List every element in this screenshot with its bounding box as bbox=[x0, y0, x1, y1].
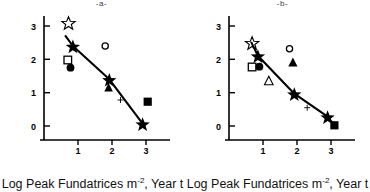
panel-a-xticklabel-1: 1 bbox=[75, 146, 80, 156]
panel-a-marker-open-star bbox=[62, 17, 75, 30]
panel-b-xticklabel-3: 3 bbox=[328, 146, 333, 156]
figure-root: -a- 0 1 2 3 1 2 3 bbox=[0, 0, 370, 192]
panel-a-marker-filled-square bbox=[144, 98, 152, 106]
panel-a-xaxis-label: Log Peak Fundatrices m-2, Year t bbox=[0, 176, 185, 191]
panel-b-xticklabel-1: 1 bbox=[260, 146, 265, 156]
panel-b-xticklabel-2: 2 bbox=[294, 146, 299, 156]
panel-a-svg: 0 1 2 3 1 2 3 bbox=[30, 14, 170, 156]
panel-a-xlabel-tail: , Year t bbox=[144, 177, 183, 191]
panel-b-yticklabel-3: 3 bbox=[216, 22, 221, 32]
panel-a-marker-open-square bbox=[64, 56, 72, 64]
panel-a-marker-open-circle bbox=[102, 43, 108, 49]
panel-b-yticklabel-2: 2 bbox=[216, 55, 221, 65]
panel-b-xlabel-tail: , Year t bbox=[329, 177, 368, 191]
panel-b-marker-filled-circle bbox=[256, 63, 264, 71]
panel-b-yticklabel-1: 1 bbox=[216, 88, 221, 98]
panel-a-xlabel-main: Log Peak Fundatrices m bbox=[2, 177, 138, 191]
panel-b-marker-open-square bbox=[248, 63, 256, 71]
panel-b-marker-filled-triangle bbox=[288, 58, 297, 67]
panel-b-marker-open-triangle bbox=[265, 76, 274, 84]
panel-a-yticklabel-1: 1 bbox=[31, 88, 36, 98]
panel-a-marker-filled-circle bbox=[67, 64, 75, 72]
panel-b-svg: 0 1 2 3 1 2 3 bbox=[215, 14, 355, 156]
panel-b-marker-open-circle bbox=[286, 46, 292, 52]
panel-a-label: -a- bbox=[0, 0, 185, 8]
panel-a-yticklabel-0: 0 bbox=[31, 122, 36, 132]
panel-b-label: -b- bbox=[185, 0, 370, 8]
panel-b-marker-small-plus bbox=[304, 105, 310, 111]
panel-a-marker-filled-star-3 bbox=[135, 117, 149, 131]
panel-a: -a- 0 1 2 3 1 2 3 bbox=[0, 0, 185, 192]
panel-a-yticklabel-2: 2 bbox=[31, 55, 36, 65]
panel-b-xlabel-main: Log Peak Fundatrices m bbox=[187, 177, 323, 191]
panel-a-xticklabel-3: 3 bbox=[143, 146, 148, 156]
panel-a-plot-area: 0 1 2 3 1 2 3 bbox=[30, 14, 170, 156]
panel-b-marker-filled-square bbox=[330, 121, 338, 129]
panel-b-yticklabel-0: 0 bbox=[216, 122, 221, 132]
panel-b: -b- 0 1 2 3 1 2 3 bbox=[185, 0, 370, 192]
panel-b-fit-line bbox=[251, 42, 334, 125]
panel-a-xticklabel-2: 2 bbox=[109, 146, 114, 156]
panel-b-xaxis-label: Log Peak Fundatrices m-2, Year t bbox=[185, 176, 370, 191]
panel-a-yticklabel-3: 3 bbox=[31, 22, 36, 32]
panel-b-plot-area: 0 1 2 3 1 2 3 bbox=[215, 14, 355, 156]
